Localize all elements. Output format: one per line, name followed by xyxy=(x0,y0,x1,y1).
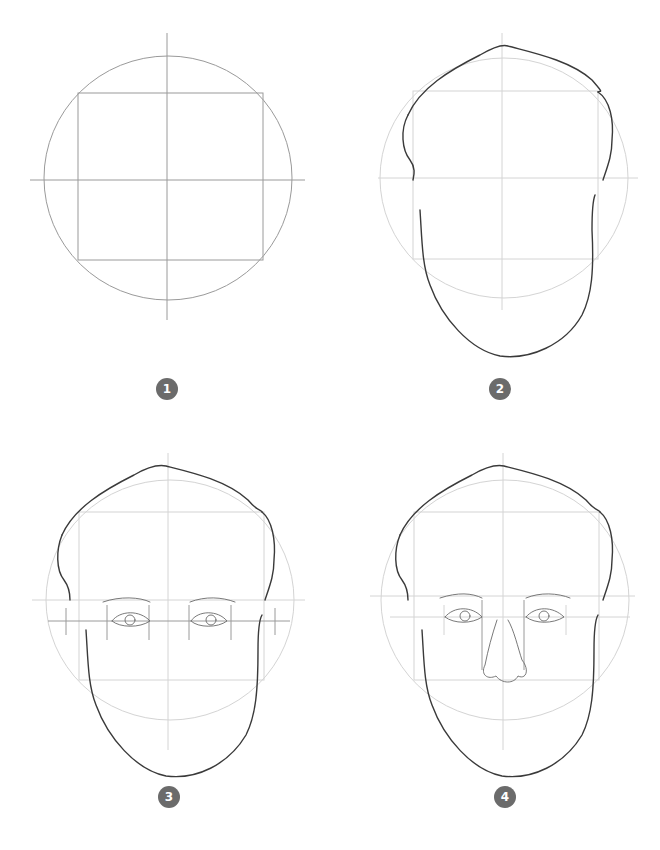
step-4-drawing: 4 xyxy=(330,420,660,850)
head-outline-illustration xyxy=(330,0,660,420)
step-badge-3: 3 xyxy=(158,786,180,808)
step-1-drawing: 1 xyxy=(0,0,330,420)
step-badge-4: 4 xyxy=(494,786,516,808)
circle-square-guide-illustration xyxy=(0,0,330,420)
step-badge-1: 1 xyxy=(156,378,178,400)
step-badge-2: 2 xyxy=(489,378,511,400)
head-with-nose-illustration xyxy=(330,420,660,850)
step-3-drawing: 3 xyxy=(0,420,330,850)
step-2-drawing: 2 xyxy=(330,0,660,420)
